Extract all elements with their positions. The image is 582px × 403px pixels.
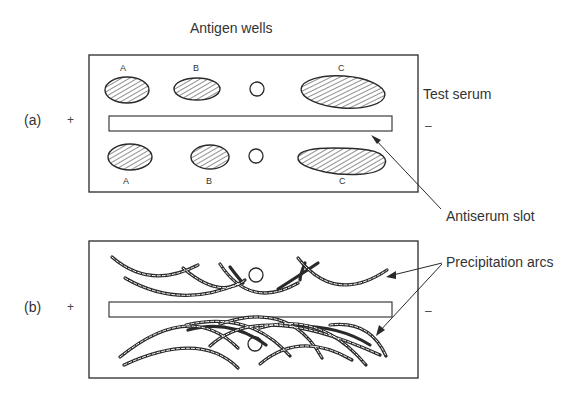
antiserum-slot-a — [109, 116, 392, 131]
arcs-arrow-bottom — [378, 264, 442, 333]
precipitation-arcs-label: Precipitation arcs — [446, 254, 553, 270]
well-label-top-a: A — [120, 63, 126, 73]
well-top-a — [105, 77, 149, 103]
panel-b-plus-sign: + — [67, 300, 74, 314]
panel-b-minus-sign: – — [425, 304, 432, 318]
antiserum-arrow — [373, 137, 441, 209]
well-bottom-empty — [249, 149, 263, 163]
well-label-top-b: B — [193, 63, 199, 73]
well-label-bottom-c: C — [339, 176, 346, 186]
antigen-wells-label: Antigen wells — [190, 20, 273, 36]
well-top-b — [174, 78, 220, 100]
test-serum-label: Test serum — [423, 86, 491, 102]
well-bottom-a — [108, 144, 152, 170]
well-top-c — [300, 73, 386, 111]
panel-a-minus-sign: – — [425, 119, 432, 133]
antiserum-slot-b — [109, 302, 392, 317]
well-top-empty — [250, 82, 264, 96]
arcs-arrow-top — [389, 263, 442, 276]
well-bottom-c — [298, 148, 386, 175]
panel-b — [89, 241, 442, 378]
panel-a-label: (a) — [24, 112, 41, 128]
panel-a — [89, 55, 441, 209]
well-label-top-c: C — [338, 63, 345, 73]
well-label-bottom-a: A — [123, 176, 129, 186]
diagram-canvas — [0, 0, 582, 403]
panel-a-plus-sign: + — [67, 113, 74, 127]
panel-b-label: (b) — [24, 299, 41, 315]
well-label-bottom-b: B — [206, 176, 212, 186]
well-top-empty-b — [249, 268, 263, 282]
antiserum-slot-label: Antiserum slot — [446, 208, 535, 224]
well-bottom-b — [191, 145, 229, 169]
